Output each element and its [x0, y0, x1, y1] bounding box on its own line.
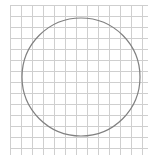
grid-canvas	[0, 0, 154, 165]
